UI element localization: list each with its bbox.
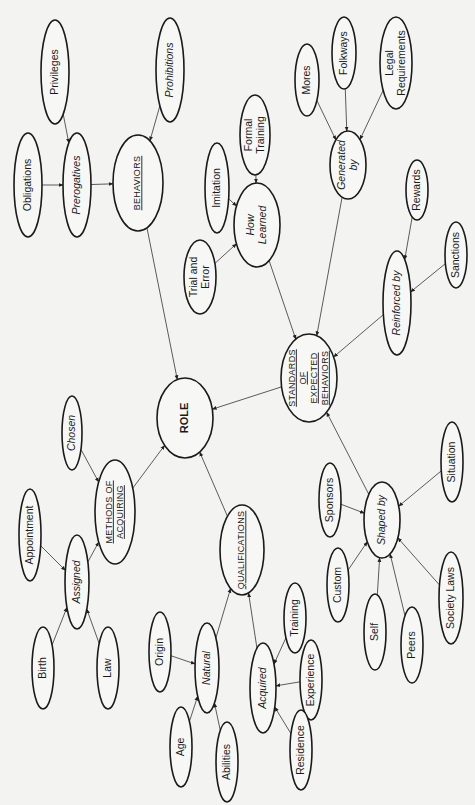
node-methods-of-acquiring: METHODS OFACQUIRING xyxy=(95,460,135,564)
arrow-folkways-to-generated-by xyxy=(345,89,347,131)
node-label: Shaped by xyxy=(375,494,387,545)
node-label: Legal xyxy=(383,50,395,76)
node-label: Privileges xyxy=(48,49,60,95)
node-natural: Natural xyxy=(195,623,219,713)
arrow-experience-to-acquired xyxy=(276,682,300,686)
node-label: Mores xyxy=(300,65,312,94)
node-trial-and-error: Trial andError xyxy=(184,240,216,314)
node-label: How xyxy=(244,213,256,235)
node-legal-requirements: LegalRequirements xyxy=(380,17,412,109)
node-qualifications: QUALIFICATIONS xyxy=(220,505,264,595)
node-how-learned: HowLearned xyxy=(234,183,280,267)
node-label: Origin xyxy=(153,638,165,666)
node-self: Self xyxy=(364,594,386,670)
node-label: Peers xyxy=(405,631,417,658)
node-label: ACQUIRING xyxy=(115,485,125,539)
node-label: Self xyxy=(368,623,380,641)
node-label: Experience xyxy=(304,654,316,707)
arrow-mores-to-generated-by xyxy=(317,100,336,139)
node-prohibitions: Prohibitions xyxy=(156,18,184,122)
arrow-standards-to-role xyxy=(212,387,281,409)
node-prerogatives: Prerogatives xyxy=(63,133,91,237)
arrow-natural-to-qualifications xyxy=(216,588,231,637)
arrow-abilities-to-natural xyxy=(214,703,220,730)
node-standards: STANDARDSOFEXPECTEDBEHAVIORS xyxy=(281,334,337,422)
node-label: Appointment xyxy=(23,505,35,564)
arrow-self-to-shaped-by xyxy=(377,558,379,595)
node-label: by xyxy=(347,159,359,171)
node-label: Law xyxy=(101,658,113,678)
node-label: Reinforced by xyxy=(390,270,402,336)
node-label: EXPECTED xyxy=(309,352,319,403)
arrow-trial-and-error-to-how-learned xyxy=(215,244,237,264)
node-sanctions: Sanctions xyxy=(445,222,467,288)
node-label: Training xyxy=(254,116,266,154)
node-origin: Origin xyxy=(149,612,171,692)
node-label: Abilities xyxy=(220,744,232,780)
arrow-legal-requirements-to-generated-by xyxy=(360,90,383,139)
node-label: Age xyxy=(174,738,186,757)
node-residence: Residence xyxy=(290,710,312,790)
node-label: Generated xyxy=(335,139,347,190)
arrow-appointment-to-assigned xyxy=(41,546,66,571)
node-label: Natural xyxy=(200,650,212,685)
node-shaped-by: Shaped by xyxy=(364,482,400,558)
node-obligations: Obligations xyxy=(14,133,42,237)
arrow-methods-of-acquiring-to-role xyxy=(133,445,165,488)
node-label: METHODS OF xyxy=(104,480,114,543)
node-sponsors: Sponsors xyxy=(319,463,341,537)
node-label: Prohibitions xyxy=(163,42,175,98)
node-folkways: Folkways xyxy=(332,17,356,89)
node-assigned: Assigned xyxy=(65,535,89,629)
node-situation: Situation xyxy=(441,422,463,502)
node-label: Residence xyxy=(294,725,306,775)
arrow-qualifications-to-role xyxy=(200,452,228,516)
node-peers: Peers xyxy=(401,607,423,683)
node-society-laws: Society Laws xyxy=(439,552,463,644)
node-chosen: Chosen xyxy=(62,396,82,470)
node-birth: Birth xyxy=(32,627,54,709)
arrow-origin-to-natural xyxy=(171,656,195,664)
node-label: QUALIFICATIONS xyxy=(236,511,246,590)
node-formal-training: FormalTraining xyxy=(240,95,270,175)
node-acquired: Acquired xyxy=(250,643,276,733)
node-behaviors: BEHAVIORS xyxy=(113,135,163,231)
node-mores: Mores xyxy=(295,44,319,116)
node-generated-by: Generatedby xyxy=(330,131,366,199)
node-age: Age xyxy=(170,707,192,787)
node-label: OF xyxy=(298,371,308,384)
node-label: Acquired xyxy=(256,666,268,710)
node-label: Assigned xyxy=(70,559,82,604)
node-label: Learned xyxy=(256,205,268,245)
node-layer: ROLEBEHAVIORSPrerogativesObligationsPriv… xyxy=(14,17,467,802)
node-label: Rewards xyxy=(410,169,422,210)
node-privileges: Privileges xyxy=(41,20,69,124)
arrow-sponsors-to-shaped-by xyxy=(341,504,364,513)
node-imitation: Imitation xyxy=(205,143,229,233)
arrow-assigned-to-methods-of-acquiring xyxy=(88,542,99,562)
arrow-privileges-to-prerogatives xyxy=(63,114,69,143)
node-label: BEHAVIORS xyxy=(132,156,142,211)
node-label: Sanctions xyxy=(449,232,461,278)
node-label: Prerogatives xyxy=(70,155,82,215)
node-rewards: Rewards xyxy=(406,160,428,220)
arrow-age-to-natural xyxy=(189,696,197,721)
arrow-reinforced-by-to-standards xyxy=(334,315,384,357)
arrow-birth-to-assigned xyxy=(52,607,67,644)
node-label: Requirements xyxy=(395,30,407,95)
arrow-situation-to-shaped-by xyxy=(399,471,442,506)
arrow-how-learned-to-standards xyxy=(269,261,296,340)
node-experience: Experience xyxy=(300,640,322,720)
arrow-prerogatives-to-behaviors xyxy=(91,184,113,185)
node-label: Trial and xyxy=(187,257,199,298)
arrow-residence-to-acquired xyxy=(275,707,291,733)
node-label: STANDARDS xyxy=(287,349,297,407)
node-abilities: Abilities xyxy=(216,722,238,802)
node-label: Formal xyxy=(242,119,254,152)
role-concept-map: ROLEBEHAVIORSPrerogativesObligationsPriv… xyxy=(0,0,475,805)
node-label: Error xyxy=(199,265,211,289)
node-label: Chosen xyxy=(65,415,77,451)
node-reinforced-by: Reinforced by xyxy=(383,251,411,355)
arrow-rewards-to-reinforced-by xyxy=(405,217,413,260)
arrow-chosen-to-methods-of-acquiring xyxy=(81,449,99,482)
